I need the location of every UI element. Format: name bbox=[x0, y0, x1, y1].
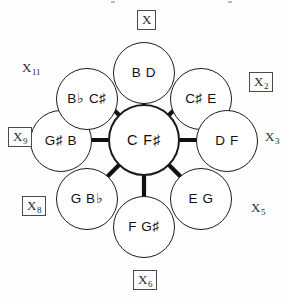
xlabel-left-base: X bbox=[13, 129, 22, 144]
diagram-canvas: C F♯ B D C♯ E D F E G F G♯ G B♭ G♯ B B♭ … bbox=[0, 0, 288, 299]
node-bottom[interactable]: F G♯ bbox=[113, 196, 175, 258]
xlabel-lower-left-base: X bbox=[27, 198, 36, 213]
center-node-label: C F♯ bbox=[127, 133, 161, 148]
scan-artifact bbox=[111, 1, 115, 3]
node-top[interactable]: B D bbox=[113, 42, 175, 104]
xlabel-upper-left[interactable]: X11 bbox=[20, 59, 42, 77]
node-upper-left[interactable]: B♭ C♯ bbox=[56, 68, 118, 130]
xlabel-right-sub: 3 bbox=[275, 136, 280, 146]
node-right[interactable]: D F bbox=[196, 110, 258, 172]
xlabel-left-sub: 9 bbox=[23, 136, 28, 146]
xlabel-left[interactable]: X9 bbox=[8, 127, 32, 147]
node-upper-right-label: C♯ E bbox=[185, 92, 217, 106]
node-right-label: D F bbox=[215, 134, 239, 148]
node-lower-right[interactable]: E G bbox=[170, 168, 232, 230]
node-upper-left-label: B♭ C♯ bbox=[67, 92, 106, 106]
xlabel-upper-right-sub: 2 bbox=[264, 81, 269, 91]
node-left-label: G♯ B bbox=[45, 134, 77, 148]
xlabel-bottom-base: X bbox=[138, 272, 147, 287]
xlabel-lower-right-base: X bbox=[251, 200, 260, 215]
xlabel-lower-left[interactable]: X8 bbox=[22, 196, 46, 216]
xlabel-lower-left-sub: 8 bbox=[37, 205, 42, 215]
xlabel-upper-left-base: X bbox=[22, 60, 31, 75]
xlabel-top-base: X bbox=[142, 12, 151, 27]
node-top-label: B D bbox=[132, 66, 156, 80]
xlabel-bottom-sub: 6 bbox=[148, 279, 153, 289]
xlabel-lower-right-sub: 5 bbox=[261, 207, 266, 217]
node-lower-left-label: G B♭ bbox=[71, 192, 104, 206]
xlabel-upper-left-sub: 11 bbox=[32, 67, 41, 77]
node-bottom-label: F G♯ bbox=[128, 220, 160, 234]
xlabel-upper-right-base: X bbox=[254, 74, 263, 89]
node-lower-right-label: E G bbox=[188, 192, 213, 206]
node-lower-left[interactable]: G B♭ bbox=[56, 168, 118, 230]
xlabel-upper-right[interactable]: X2 bbox=[249, 72, 273, 92]
xlabel-right[interactable]: X3 bbox=[263, 128, 281, 146]
xlabel-bottom[interactable]: X6 bbox=[133, 270, 157, 290]
center-node[interactable]: C F♯ bbox=[108, 104, 180, 176]
xlabel-right-base: X bbox=[265, 129, 274, 144]
xlabel-top[interactable]: X bbox=[137, 10, 156, 30]
scan-artifact bbox=[228, 1, 232, 3]
xlabel-lower-right[interactable]: X5 bbox=[249, 199, 267, 217]
